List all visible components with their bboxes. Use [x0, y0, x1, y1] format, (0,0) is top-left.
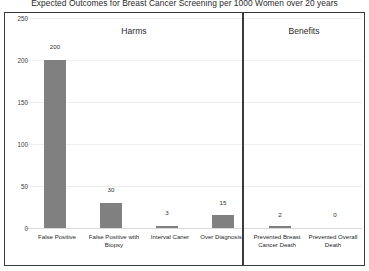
x-label-prevented-overall-death: Prevented Overall Death: [304, 233, 362, 248]
x-label-false-positive-biopsy: False Positive with Biopsy: [83, 233, 145, 248]
bar-value-false-positive: 200: [44, 43, 66, 50]
plot-area: 200 30 3 15 2 0: [26, 18, 362, 228]
x-label-prevented-breast-cancer-death: Prevented Breast Cancer Death: [248, 233, 306, 248]
x-label-false-positive: False Positive: [26, 233, 88, 241]
x-label-interval-cancer: Interval Caner: [140, 233, 200, 241]
bar-value-false-positive-biopsy: 30: [100, 186, 122, 193]
chart-title: Expected Outcomes for Breast Cancer Scre…: [0, 0, 369, 9]
bar-column-false-positive-biopsy: 30: [100, 18, 122, 228]
bar-value-over-diagnosis: 15: [212, 199, 234, 206]
bar-interval-cancer[interactable]: [156, 226, 178, 229]
bar-column-prevented-overall-death: 0: [324, 18, 346, 228]
bar-false-positive-biopsy[interactable]: [100, 203, 122, 228]
chart-screenshot: Expected Outcomes for Breast Cancer Scre…: [0, 0, 369, 271]
gridline-0: [26, 228, 362, 229]
bar-false-positive[interactable]: [44, 60, 66, 228]
bar-column-interval-cancer: 3: [156, 18, 178, 228]
bar-prevented-breast-cancer-death[interactable]: [269, 226, 291, 228]
bar-column-prevented-breast-cancer-death: 2: [269, 18, 291, 228]
bar-value-prevented-breast-cancer-death: 2: [269, 211, 291, 218]
x-label-over-diagnosis: Over Diagnosis: [192, 233, 250, 241]
bar-value-interval-cancer: 3: [156, 209, 178, 216]
bar-column-over-diagnosis: 15: [212, 18, 234, 228]
bar-over-diagnosis[interactable]: [212, 215, 234, 228]
bar-column-false-positive: 200: [44, 18, 66, 228]
bar-value-prevented-overall-death: 0: [324, 211, 346, 218]
